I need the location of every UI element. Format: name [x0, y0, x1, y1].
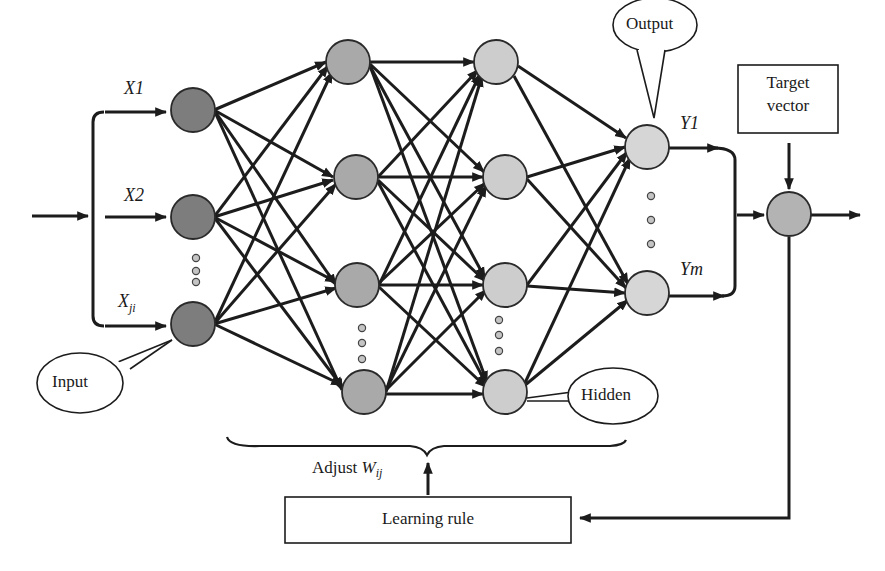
bubble-hidden-label: Hidden	[581, 385, 631, 405]
input-node-1	[171, 88, 215, 132]
label-x1: X1	[124, 78, 144, 99]
label-xji-main: X	[118, 291, 129, 311]
edges-hidden2-to-output	[514, 66, 630, 386]
ellipsis-dot	[192, 254, 199, 261]
hidden2-node-3	[483, 263, 527, 307]
hidden2-node-4	[483, 370, 527, 414]
ellipsis-dot	[647, 216, 654, 223]
label-xji: Xji	[118, 291, 136, 316]
input-node-3	[171, 302, 215, 346]
output-node-1	[625, 125, 669, 169]
ellipsis-dot	[647, 240, 654, 247]
input-layer	[171, 88, 215, 346]
hidden2-node-2	[483, 155, 527, 199]
adjust-w: W	[362, 458, 376, 477]
target-vector-line1: Target	[738, 71, 838, 94]
hidden1-node-2	[334, 155, 378, 199]
ellipsis-dot	[495, 347, 502, 354]
adjust-weights-label: Adjust Wij	[312, 458, 382, 481]
adjust-sub: ij	[376, 466, 383, 480]
hidden-layer-2	[474, 40, 527, 414]
ellipsis-dot	[495, 331, 502, 338]
input-bus	[32, 112, 166, 326]
hidden1-node-1	[326, 40, 370, 84]
label-x2: X2	[124, 185, 144, 206]
ellipsis-dot	[647, 192, 654, 199]
label-y1: Y1	[680, 113, 699, 134]
bubble-output-label: Output	[626, 14, 673, 34]
label-xji-sub: ji	[129, 301, 136, 315]
hidden1-node-4	[342, 370, 386, 414]
target-vector-line2: vector	[738, 94, 838, 117]
learning-rule-label: Learning rule	[285, 509, 571, 529]
target-vector-label: Target vector	[738, 71, 838, 117]
hidden1-node-3	[335, 263, 379, 307]
ellipsis-dot	[495, 316, 502, 323]
summing-node	[767, 192, 811, 236]
ellipsis-dot	[358, 324, 365, 331]
ellipsis-dot	[192, 267, 199, 274]
label-ym: Ym	[680, 259, 703, 280]
output-layer	[625, 125, 669, 315]
edges-hidden1-to-hidden2	[370, 62, 487, 394]
ellipsis-dot	[358, 355, 365, 362]
output-node-m	[625, 271, 669, 315]
bubble-input-label: Input	[52, 372, 88, 392]
edges-input-to-hidden1	[214, 62, 343, 390]
hidden2-node-1	[474, 40, 518, 84]
hidden-layer-1	[326, 40, 386, 414]
adjust-brace	[227, 437, 626, 455]
ellipsis-dot	[192, 278, 199, 285]
ellipsis-dot	[358, 339, 365, 346]
adjust-prefix: Adjust	[312, 458, 362, 477]
input-node-2	[171, 195, 215, 239]
